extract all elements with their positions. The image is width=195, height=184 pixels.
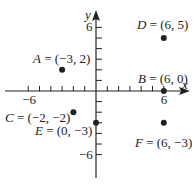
point-label-d: D = (6, 5) [136,17,188,32]
point-e [93,120,99,126]
x-tick-label: −6 [22,92,36,107]
x-tick-label: 6 [161,92,168,107]
point-c [70,109,76,115]
point-d [161,35,167,41]
point-f [161,120,167,126]
point-a [59,67,65,73]
coordinate-plane: yx−666−6A = (−3, 2)B = (6, 0)C = (−2, −2… [0,0,195,184]
point-label-e: E = (0, −3) [34,123,92,138]
point-label-a: A = (−3, 2) [32,51,90,66]
y-tick-label: 6 [86,19,93,34]
labels: yx−666−6A = (−3, 2)B = (6, 0)C = (−2, −2… [5,7,192,162]
point-label-f: F = (6, −3) [134,135,192,150]
point-label-b: B = (6, 0) [138,71,188,86]
y-tick-label: −6 [79,147,93,162]
